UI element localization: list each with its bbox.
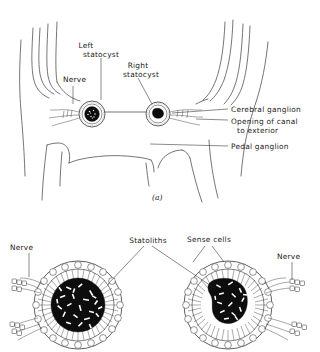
statocyst-figure: Nerve Left statocyst Right statocyst Cer… bbox=[0, 0, 320, 352]
svg-text:statocyst: statocyst bbox=[83, 50, 119, 59]
svg-text:Opening of canal: Opening of canal bbox=[231, 117, 298, 126]
label-nerve-left: Nerve bbox=[10, 243, 33, 252]
svg-text:statocyst: statocyst bbox=[123, 70, 159, 79]
label-cerebral-ganglion: Cerebral ganglion bbox=[231, 105, 301, 114]
label-sense-cells: Sense cells bbox=[187, 235, 231, 244]
label-nerve-right: Nerve bbox=[277, 252, 300, 261]
label-pedal-ganglion: Pedal ganglion bbox=[231, 142, 289, 151]
svg-text:to exterior: to exterior bbox=[237, 126, 279, 135]
svg-text:Left: Left bbox=[79, 41, 94, 50]
caption-a: (a) bbox=[152, 193, 162, 202]
label-nerve: Nerve bbox=[63, 75, 86, 84]
svg-text:Right: Right bbox=[128, 61, 149, 70]
label-statoliths: Statoliths bbox=[129, 236, 167, 245]
left-statolith-mass bbox=[51, 278, 105, 332]
